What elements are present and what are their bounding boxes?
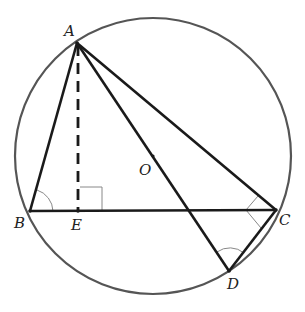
point-c <box>274 208 278 212</box>
right-angle-mark-c <box>246 196 261 228</box>
segment-bc <box>30 210 276 211</box>
angle-mark-d <box>217 248 244 253</box>
segment-cd <box>229 210 276 271</box>
label-o: O <box>139 163 151 178</box>
point-d <box>227 269 231 273</box>
label-e: E <box>71 218 82 233</box>
segment-ac <box>77 43 276 210</box>
point-a <box>75 41 79 45</box>
label-d: D <box>227 277 239 292</box>
point-e <box>76 209 80 213</box>
diagram-canvas <box>0 0 305 312</box>
angle-mark-b <box>37 190 53 211</box>
point-o <box>151 154 154 157</box>
label-c: C <box>279 213 290 228</box>
label-a: A <box>64 24 75 39</box>
geometry-diagram: A B E C D O <box>0 0 305 312</box>
point-b <box>28 209 32 213</box>
right-angle-mark-e <box>80 187 102 211</box>
label-b: B <box>14 216 25 231</box>
segment-ab <box>30 43 77 211</box>
